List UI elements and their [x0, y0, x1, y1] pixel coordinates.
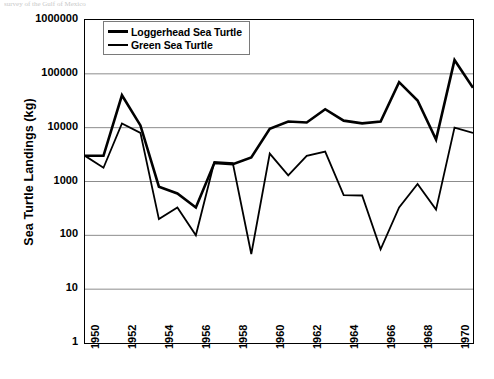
x-tick-label: 1962	[311, 315, 323, 349]
x-tick-label: 1966	[385, 315, 397, 349]
x-tick-label: 1952	[126, 315, 138, 349]
data-series-layer	[85, 60, 473, 254]
y-tick-label: 1000000	[0, 12, 78, 24]
x-tick-label: 1954	[163, 315, 175, 349]
y-tick-label: 10	[0, 281, 78, 293]
x-tick-label: 1950	[89, 315, 101, 349]
y-tick-label: 1000	[0, 174, 78, 186]
legend-item: Green Sea Turtle	[108, 38, 242, 51]
chart-legend: Loggerhead Sea TurtleGreen Sea Turtle	[103, 21, 250, 55]
x-tick-label: 1970	[459, 315, 471, 349]
series-line	[85, 123, 473, 254]
y-tick-label: 1	[0, 335, 78, 347]
gridlines	[85, 74, 473, 289]
sea-turtle-landings-figure: survey of the Gulf of Mexico Sea Turtle …	[0, 0, 494, 379]
top-caption-text: survey of the Gulf of Mexico	[4, 0, 304, 9]
y-tick-label: 100000	[0, 66, 78, 78]
y-axis-title: Sea Turtle Landings (kg)	[22, 72, 36, 272]
x-tick-label: 1958	[237, 315, 249, 349]
series-line	[85, 60, 473, 207]
y-tick-label: 10000	[0, 120, 78, 132]
chart-canvas	[85, 20, 473, 343]
legend-line-swatch	[108, 27, 128, 37]
legend-item-label: Loggerhead Sea Turtle	[131, 26, 242, 38]
x-tick-label: 1960	[274, 315, 286, 349]
y-tick-label: 100	[0, 227, 78, 239]
plot-area	[84, 19, 474, 344]
legend-item: Loggerhead Sea Turtle	[108, 25, 242, 38]
legend-item-label: Green Sea Turtle	[131, 39, 213, 51]
x-tick-label: 1964	[348, 315, 360, 349]
x-tick-label: 1956	[200, 315, 212, 349]
x-tick-label: 1968	[422, 315, 434, 349]
legend-line-swatch	[108, 40, 128, 50]
